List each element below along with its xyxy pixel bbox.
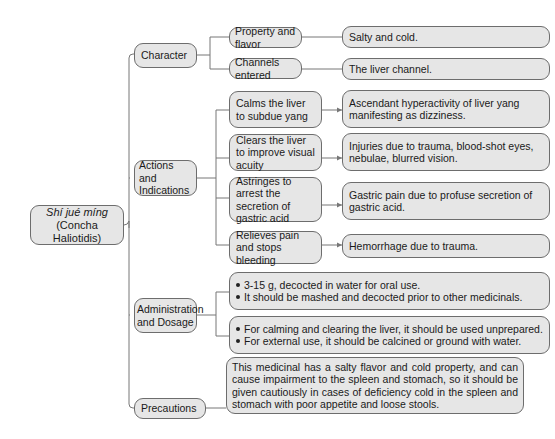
branch-precautions: Precautions bbox=[134, 398, 206, 419]
character-item-value: Salty and cold. bbox=[342, 26, 550, 48]
action-value: Ascendant hyperactivity of liver yang ma… bbox=[349, 97, 543, 122]
branch-actions: Actions and Indications bbox=[134, 160, 197, 196]
action-value: Hemorrhage due to trauma. bbox=[349, 240, 478, 253]
channels-entered-value: The liver channel. bbox=[349, 63, 432, 76]
action-label: Astringes to arrest the secretion of gas… bbox=[236, 175, 315, 225]
administration-group: For calming and clearing the liver, it s… bbox=[229, 316, 550, 354]
action-item-label: Astringes to arrest the secretion of gas… bbox=[229, 177, 322, 222]
property-flavor-label: Property and flavor bbox=[235, 25, 296, 50]
action-label: Clears the liver to improve visual acuit… bbox=[236, 134, 315, 172]
branch-administration-label: Administration and Dosage bbox=[137, 303, 204, 328]
action-item-value: Injuries due to trauma, blood-shot eyes,… bbox=[342, 133, 550, 171]
action-value: Injuries due to trauma, blood-shot eyes,… bbox=[349, 140, 543, 165]
character-item-value: The liver channel. bbox=[342, 58, 550, 80]
bullet-item: 3-15 g, decocted in water for oral use. bbox=[236, 279, 522, 292]
action-value: Gastric pain due to profuse secretion of… bbox=[349, 189, 543, 214]
action-item-value: Gastric pain due to profuse secretion of… bbox=[342, 182, 550, 220]
branch-character-label: Character bbox=[141, 49, 187, 62]
bullet-item: For calming and clearing the liver, it s… bbox=[236, 323, 543, 336]
action-label: Relieves pain and stops bleeding bbox=[236, 229, 315, 267]
property-flavor-value: Salty and cold. bbox=[349, 31, 418, 44]
bullet-item: It should be mashed and decocted prior t… bbox=[236, 291, 522, 304]
action-item-label: Calms the liver to subdue yang bbox=[229, 91, 322, 128]
root-subtitle: (Concha Haliotidis) bbox=[53, 219, 101, 244]
precautions-text-box: This medicinal has a salty flavor and co… bbox=[226, 357, 524, 414]
branch-character: Character bbox=[134, 43, 197, 68]
action-label: Calms the liver to subdue yang bbox=[236, 97, 315, 122]
character-item-label: Channels entered bbox=[229, 58, 302, 79]
action-item-value: Hemorrhage due to trauma. bbox=[342, 234, 550, 258]
branch-actions-label: Actions and Indications bbox=[139, 159, 192, 197]
branch-precautions-label: Precautions bbox=[141, 402, 196, 415]
action-item-label: Clears the liver to improve visual acuit… bbox=[229, 134, 322, 171]
administration-group: 3-15 g, decocted in water for oral use. … bbox=[229, 272, 550, 310]
action-item-label: Relieves pain and stops bleeding bbox=[229, 231, 322, 264]
action-item-value: Ascendant hyperactivity of liver yang ma… bbox=[342, 90, 550, 128]
bullet-item: For external use, it should be calcined … bbox=[236, 335, 543, 348]
root-node: Shí jué míng (Concha Haliotidis) bbox=[30, 205, 124, 245]
branch-administration: Administration and Dosage bbox=[134, 298, 197, 333]
channels-entered-label: Channels entered bbox=[235, 56, 296, 81]
root-title: Shí jué míng bbox=[37, 206, 117, 219]
character-item-label: Property and flavor bbox=[229, 27, 302, 48]
precautions-text: This medicinal has a salty flavor and co… bbox=[232, 361, 518, 411]
